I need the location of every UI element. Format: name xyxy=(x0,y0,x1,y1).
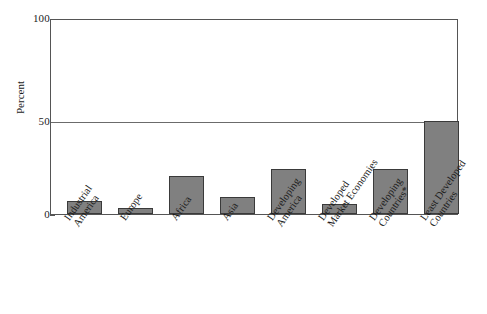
y-tick-label-100: 100 xyxy=(16,13,50,24)
chart-page: 100 50 0 Percent Industrial America Euro… xyxy=(0,0,487,314)
x-axis-labels: Industrial America Europe Africa Asia De… xyxy=(0,216,487,314)
y-axis-title: Percent xyxy=(15,68,26,128)
